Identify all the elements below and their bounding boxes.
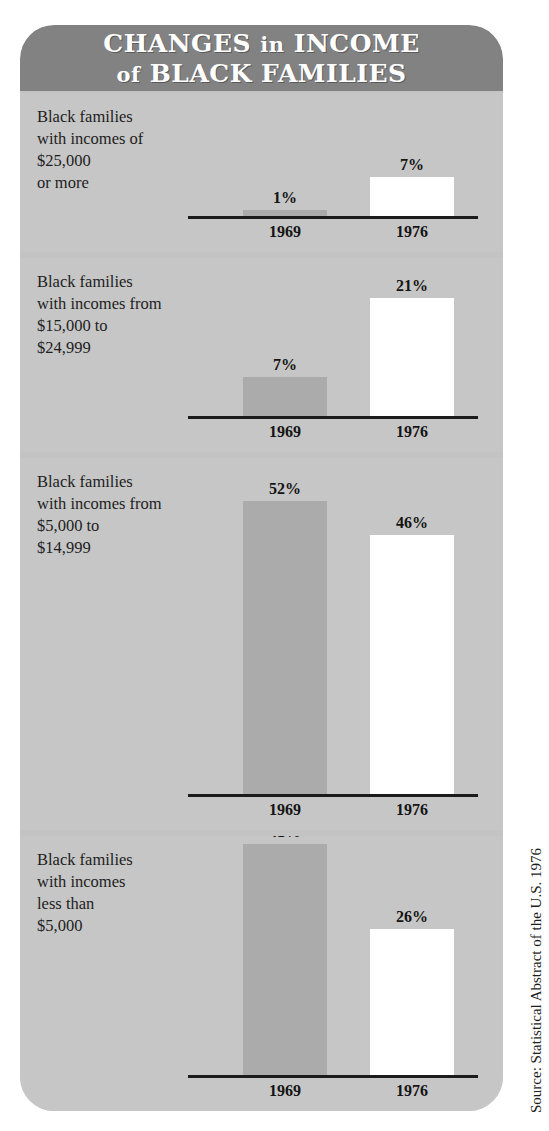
chart-panel: Black familieswith incomesless than$5,00… <box>20 836 503 1111</box>
title-changes: CHANGES <box>103 29 251 58</box>
infographic-card: CHANGES in INCOME of BLACK FAMILIES Blac… <box>20 25 503 1111</box>
bar-1976 <box>370 535 454 794</box>
bar-value-label: 41% <box>243 836 327 841</box>
bar-value-label: 46% <box>370 514 454 532</box>
chart-panel: Black familieswith incomes from$5,000 to… <box>20 458 503 830</box>
bar-value-label: 7% <box>370 156 454 174</box>
bar-1969 <box>243 501 327 794</box>
bar-1969 <box>243 844 327 1075</box>
bar-value-label: 26% <box>370 908 454 926</box>
chart-panel: Black familieswith incomes from$15,000 t… <box>20 258 503 452</box>
axis-year-label: 1969 <box>243 801 327 819</box>
plot-area: 7%196921%1976 <box>188 258 488 452</box>
axis-year-label: 1969 <box>243 1082 327 1100</box>
axis-year-label: 1969 <box>243 223 327 241</box>
chart-panel: Black familieswith incomes of$25,000or m… <box>20 93 503 252</box>
axis-year-label: 1976 <box>370 801 454 819</box>
title-in: in <box>260 32 284 57</box>
plot-area: 1%19697%1976 <box>188 93 488 252</box>
axis-baseline <box>188 794 478 797</box>
bar-value-label: 52% <box>243 480 327 498</box>
bar-value-label: 21% <box>370 277 454 295</box>
bar-1976 <box>370 177 454 216</box>
bar-1969 <box>243 210 327 216</box>
axis-year-label: 1976 <box>370 423 454 441</box>
plot-area: 52%196946%1976 <box>188 458 488 830</box>
bar-1976 <box>370 929 454 1075</box>
bar-1969 <box>243 377 327 416</box>
bar-1976 <box>370 298 454 416</box>
title-income: INCOME <box>294 29 420 58</box>
title-banner: CHANGES in INCOME of BLACK FAMILIES <box>20 25 503 91</box>
title-of: of <box>116 62 140 87</box>
bar-value-label: 7% <box>243 356 327 374</box>
title-black-families: BLACK FAMILIES <box>150 59 407 88</box>
bar-value-label: 1% <box>243 189 327 207</box>
axis-baseline <box>188 416 478 419</box>
axis-baseline <box>188 1075 478 1078</box>
title-line-2: of BLACK FAMILIES <box>20 59 503 89</box>
source-note: Source: Statistical Abstract of the U.S.… <box>528 848 545 1113</box>
axis-year-label: 1969 <box>243 423 327 441</box>
axis-year-label: 1976 <box>370 223 454 241</box>
title-line-1: CHANGES in INCOME <box>20 29 503 59</box>
axis-baseline <box>188 216 478 219</box>
plot-area: 41%196926%1976 <box>188 836 488 1111</box>
axis-year-label: 1976 <box>370 1082 454 1100</box>
